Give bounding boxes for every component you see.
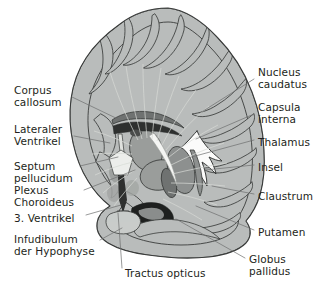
label-globus-pallidus: Globuspallidus (249, 253, 290, 278)
label-line: interna (258, 113, 301, 125)
label-line: pellucidum (14, 172, 73, 184)
label-line: Infudibulum (14, 233, 95, 245)
label-line: Choroideus (14, 196, 74, 208)
label-line: Thalamus (258, 136, 310, 148)
label-line: caudatus (258, 78, 307, 90)
label-plexus-choroideus: PlexusChoroideus (14, 184, 74, 209)
label-corpus-callosum: Corpuscallosum (14, 84, 62, 109)
label-lateraler-ventrikel: LateralerVentrikel (14, 123, 62, 148)
label-septum-pellucidum: Septumpellucidum (14, 160, 73, 185)
temporal-tip-left (106, 211, 141, 234)
label-nucleus-caudatus: Nucleuscaudatus (258, 66, 307, 91)
label-tractus-opticus: Tractus opticus (125, 267, 206, 279)
brain-body (70, 8, 264, 258)
brain-section-figure: CorpuscallosumLateralerVentrikelSeptumpe… (0, 0, 320, 295)
label-line: Claustrum (258, 190, 313, 202)
label-line: Insel (258, 161, 283, 173)
label-line: Ventrikel (14, 135, 62, 147)
label-claustrum: Claustrum (258, 190, 313, 202)
cerebral-cortex (70, 8, 264, 258)
label-line: Globus (249, 253, 290, 265)
label-line: Septum (14, 160, 73, 172)
label-line: pallidus (249, 265, 290, 277)
label-line: Plexus (14, 184, 74, 196)
label-line: 3. Ventrikel (14, 212, 74, 224)
label-infudibulum-hypophyse: Infudibulumder Hypophyse (14, 233, 95, 258)
label-line: Capsula (258, 101, 301, 113)
label-line: Putamen (258, 226, 305, 238)
label-putamen: Putamen (258, 226, 305, 238)
label-line: Nucleus (258, 66, 307, 78)
label-capsula-interna: Capsulainterna (258, 101, 301, 126)
label-line: der Hypophyse (14, 245, 95, 257)
label-line: Lateraler (14, 123, 62, 135)
label-line: Tractus opticus (125, 267, 206, 279)
label-line: Corpus (14, 84, 62, 96)
label-insel: Insel (258, 161, 283, 173)
label-dritte-ventrikel: 3. Ventrikel (14, 212, 74, 224)
label-thalamus: Thalamus (258, 136, 310, 148)
deep-gray-blob-c (125, 180, 139, 196)
label-line: callosum (14, 96, 62, 108)
